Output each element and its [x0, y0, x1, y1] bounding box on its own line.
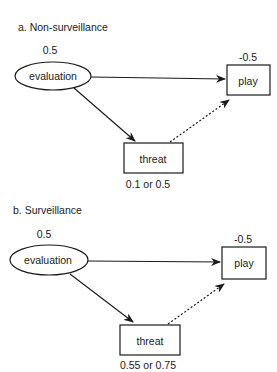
- panel-a-title: a. Non-surveillance: [18, 22, 108, 33]
- play-value-a: -0.5: [239, 52, 257, 63]
- edge-evaluation-threat-a: [74, 88, 135, 141]
- threat-value-b: 0.55 or 0.75: [120, 360, 176, 371]
- evaluation-value-b: 0.5: [37, 229, 52, 240]
- edge-threat-play-b: [168, 284, 224, 324]
- threat-label-b: threat: [137, 336, 164, 347]
- play-label-b: play: [234, 258, 253, 269]
- play-label-a: play: [238, 76, 257, 87]
- panel-b-title: b. Surveillance: [13, 205, 82, 216]
- evaluation-label-a: evaluation: [29, 71, 77, 82]
- edge-threat-play-a: [170, 100, 229, 142]
- threat-value-a: 0.1 or 0.5: [126, 179, 170, 190]
- edge-evaluation-threat-b: [70, 274, 133, 322]
- evaluation-label-b: evaluation: [24, 255, 72, 266]
- edge-evaluation-play-b: [88, 261, 220, 262]
- edge-evaluation-play-a: [91, 77, 225, 79]
- threat-label-a: threat: [140, 154, 167, 165]
- evaluation-value-a: 0.5: [43, 45, 58, 56]
- play-value-b: -0.5: [234, 234, 252, 245]
